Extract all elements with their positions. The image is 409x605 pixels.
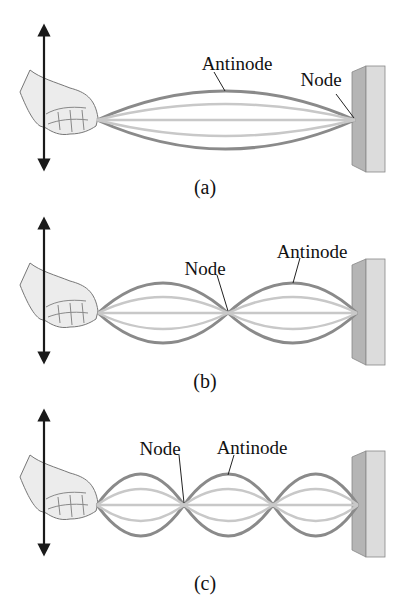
- antinode-label: Antinode: [202, 53, 273, 74]
- wall-icon: [352, 66, 385, 172]
- panel-caption: (a): [194, 176, 216, 199]
- hand-icon: [20, 455, 98, 520]
- panel-c: Node Antinode (c): [20, 415, 385, 595]
- antinode-label: Antinode: [217, 437, 288, 458]
- hand-icon: [20, 70, 98, 135]
- string-envelope: [97, 474, 358, 536]
- node-pointer: [179, 455, 184, 503]
- panel-caption: (b): [193, 370, 216, 393]
- standing-waves-diagram: Antinode Node (a) Node Antinode (b): [0, 0, 409, 605]
- antinode-pointer: [214, 72, 225, 91]
- panel-caption: (c): [194, 572, 216, 595]
- string-envelope: [97, 91, 355, 149]
- antinode-pointer: [228, 455, 234, 475]
- hand-icon: [20, 263, 98, 328]
- antinode-label: Antinode: [277, 241, 348, 262]
- node-label: Node: [184, 258, 225, 279]
- panel-a: Antinode Node (a): [20, 30, 385, 199]
- panel-b: Node Antinode (b): [20, 223, 385, 393]
- string-envelope: [98, 283, 357, 343]
- node-label: Node: [139, 438, 180, 459]
- node-label: Node: [300, 69, 341, 90]
